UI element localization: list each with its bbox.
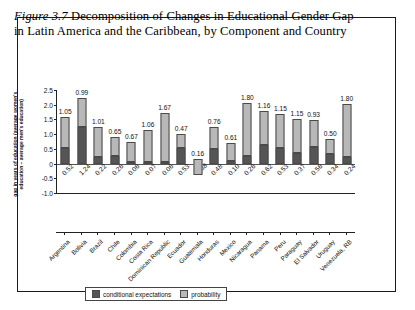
x-axis-tick-mark — [131, 232, 132, 235]
bar-segment-conditional-expectations[interactable] — [160, 162, 169, 164]
x-axis-tick-mark — [296, 232, 297, 235]
bar-segment-conditional-expectations[interactable] — [177, 148, 186, 164]
x-axis-tick-mark — [230, 232, 231, 235]
x-axis-tick-mark — [164, 232, 165, 235]
bar-segment-conditional-expectations[interactable] — [259, 145, 268, 163]
bar-segment-conditional-expectations[interactable] — [210, 149, 219, 163]
x-axis-tick-mark — [313, 232, 314, 235]
bar-slot[interactable]: 1.670.06 — [156, 90, 173, 193]
bar-segment-probability[interactable] — [61, 117, 70, 148]
stacked-bar[interactable] — [177, 90, 186, 193]
stacked-bar[interactable] — [309, 90, 318, 193]
figure-number: Figure 3.7 — [14, 9, 68, 23]
bar-segment-probability[interactable] — [193, 159, 202, 175]
stacked-bar[interactable] — [210, 90, 219, 193]
bar-segment-conditional-expectations[interactable] — [309, 147, 318, 163]
x-axis-tick-mark — [329, 232, 330, 235]
x-axis-tick-mark — [81, 232, 82, 235]
x-axis-tick-mark — [280, 232, 281, 235]
bar-segment-probability[interactable] — [127, 142, 136, 162]
bar-segment-probability[interactable] — [226, 143, 235, 161]
chart-area: gap in years of education (average women… — [0, 86, 379, 275]
bar-segment-conditional-expectations[interactable] — [94, 157, 103, 163]
bar-segment-conditional-expectations[interactable] — [243, 156, 252, 164]
bar-slot[interactable]: 0.930.56 — [305, 90, 322, 193]
bar-segment-probability[interactable] — [326, 139, 335, 154]
x-axis-category-label: Brazil — [88, 238, 104, 254]
stacked-bar[interactable] — [342, 90, 351, 193]
bar-segment-conditional-expectations[interactable] — [110, 156, 119, 164]
stacked-bar[interactable] — [276, 90, 285, 193]
bar-slot[interactable]: 0.500.34 — [322, 90, 339, 193]
stacked-bar[interactable] — [127, 90, 136, 193]
x-axis-tick-mark — [213, 232, 214, 235]
stacked-bar[interactable] — [94, 90, 103, 193]
bar-slot[interactable]: 1.010.22 — [90, 90, 107, 193]
bar-segment-conditional-expectations[interactable] — [61, 148, 70, 163]
stacked-bar[interactable] — [326, 90, 335, 193]
stacked-bar[interactable] — [110, 90, 119, 193]
bar-segment-probability[interactable] — [144, 130, 153, 161]
x-axis-tick-mark — [180, 232, 181, 235]
stacked-bar[interactable] — [144, 90, 153, 193]
bar-slot[interactable]: 0.760.48 — [206, 90, 223, 193]
bar-segment-probability[interactable] — [259, 111, 268, 145]
x-axis-category-label: Argentina — [47, 238, 71, 262]
legend-item[interactable]: probability — [180, 290, 220, 298]
bar-segment-probability[interactable] — [243, 103, 252, 156]
legend-label: conditional expectations — [103, 291, 171, 298]
bar-segment-conditional-expectations[interactable] — [326, 154, 335, 164]
bar-segment-probability[interactable] — [293, 119, 302, 153]
stacked-bar[interactable] — [293, 90, 302, 193]
x-axis-tick-mark — [263, 232, 264, 235]
stacked-bar[interactable] — [160, 90, 169, 193]
legend-label: probability — [191, 291, 220, 298]
bar-segment-conditional-expectations[interactable] — [77, 127, 86, 163]
bar-segment-probability[interactable] — [276, 114, 285, 148]
figure-title: Figure 3.7 Decomposition of Changes in E… — [14, 9, 354, 39]
bar-slot[interactable]: 1.150.53 — [272, 90, 289, 193]
bar-segment-conditional-expectations[interactable] — [276, 148, 285, 164]
x-axis-tick-mark — [114, 232, 115, 235]
stacked-bar[interactable] — [61, 90, 70, 193]
stacked-bar[interactable] — [243, 90, 252, 193]
bar-segment-probability[interactable] — [94, 127, 103, 157]
bar-slot[interactable]: 1.160.62 — [256, 90, 273, 193]
x-axis-category-label: Bolivia — [70, 238, 88, 256]
bar-series-group: 1.050.520.991.241.010.220.650.260.670.06… — [57, 90, 355, 193]
bar-segment-probability[interactable] — [77, 98, 86, 127]
bar-slot[interactable]: 0.991.24 — [74, 90, 91, 193]
legend-item[interactable]: conditional expectations — [92, 290, 171, 298]
bar-slot[interactable]: 0.670.06 — [123, 90, 140, 193]
bar-segment-probability[interactable] — [342, 104, 351, 157]
stacked-bar[interactable] — [259, 90, 268, 193]
plot-area: 2.52.01.51.00.50-0.5-1.0 1.050.520.991.2… — [56, 90, 355, 194]
bar-segment-conditional-expectations[interactable] — [342, 157, 351, 164]
stacked-bar[interactable] — [226, 90, 235, 193]
bar-segment-probability[interactable] — [160, 113, 169, 162]
stacked-bar[interactable] — [193, 90, 202, 193]
y-axis-label: gap in years of education (average women… — [12, 80, 24, 208]
bar-slot[interactable]: 0.16-0.38 — [189, 90, 206, 193]
bar-segment-probability[interactable] — [177, 134, 186, 148]
chart-legend: conditional expectationsprobability — [85, 287, 227, 301]
bar-segment-conditional-expectations[interactable] — [144, 162, 153, 164]
bar-slot[interactable]: 0.610.10 — [223, 90, 240, 193]
x-axis-tick-mark — [197, 232, 198, 235]
stacked-bar[interactable] — [77, 90, 86, 193]
bar-segment-probability[interactable] — [110, 137, 119, 156]
x-axis-tick-mark — [147, 232, 148, 235]
bar-slot[interactable]: 1.050.52 — [57, 90, 74, 193]
bar-segment-probability[interactable] — [210, 127, 219, 149]
legend-swatch — [92, 290, 100, 298]
bar-segment-probability[interactable] — [309, 120, 318, 147]
bar-segment-conditional-expectations[interactable] — [226, 161, 235, 164]
bar-slot[interactable]: 1.800.24 — [338, 90, 355, 193]
bar-segment-conditional-expectations[interactable] — [293, 153, 302, 164]
bar-slot[interactable]: 1.150.37 — [289, 90, 306, 193]
bar-slot[interactable]: 0.470.53 — [173, 90, 190, 193]
bar-segment-conditional-expectations[interactable] — [127, 162, 136, 164]
bar-slot[interactable]: 0.650.26 — [107, 90, 124, 193]
bar-slot[interactable]: 1.060.07 — [140, 90, 157, 193]
bar-slot[interactable]: 1.800.26 — [239, 90, 256, 193]
